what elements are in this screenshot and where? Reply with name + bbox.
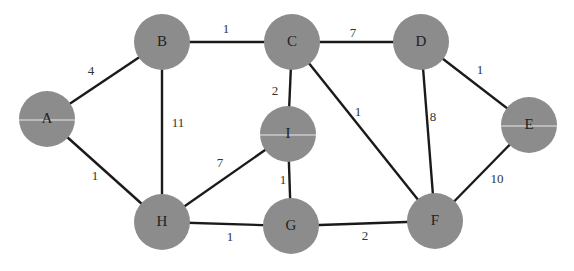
node-c: C <box>264 14 320 70</box>
edge-weight-label: 1 <box>280 172 287 187</box>
node-label: B <box>157 33 167 49</box>
node-label: D <box>416 33 427 49</box>
node-d: D <box>393 14 449 70</box>
edge-weight-label: 4 <box>88 63 95 78</box>
edge-weight-label: 2 <box>362 228 369 243</box>
nodes-layer: ABCDEFGHI <box>19 14 557 254</box>
node-label: E <box>524 116 533 132</box>
edge-weight-label: 8 <box>430 109 437 124</box>
edge-weight-label: 1 <box>92 168 99 183</box>
node-a: A <box>19 91 75 147</box>
node-i: I <box>260 106 316 162</box>
edge-weight-label: 7 <box>350 25 357 40</box>
edge-weight-label: 2 <box>272 83 279 98</box>
edge-weight-label: 1 <box>477 62 484 77</box>
node-label: G <box>286 217 297 233</box>
edge-weight-label: 1 <box>223 21 230 36</box>
node-f: F <box>407 193 463 249</box>
edge-weight-label: 7 <box>217 155 224 170</box>
node-g: G <box>263 198 319 254</box>
node-e: E <box>501 97 557 153</box>
node-h: H <box>134 194 190 250</box>
node-label: A <box>42 110 53 126</box>
edge-weight-label: 1 <box>355 104 362 119</box>
edge-weight-label: 11 <box>172 115 185 130</box>
graph-svg: ABCDEFGHI 4111172181107112 <box>0 0 574 271</box>
edge-weight-label: 1 <box>227 229 234 244</box>
node-label: I <box>286 125 291 141</box>
node-label: H <box>157 213 168 229</box>
node-label: F <box>431 212 439 228</box>
node-b: B <box>134 14 190 70</box>
node-label: C <box>287 33 297 49</box>
graph-diagram: ABCDEFGHI 4111172181107112 <box>0 0 574 271</box>
edge-weight-label: 10 <box>491 171 504 186</box>
